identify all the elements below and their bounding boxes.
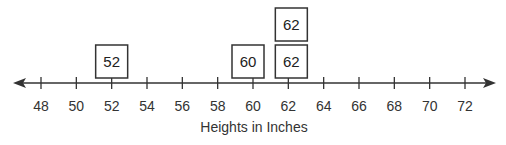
number-line-plot: 48505254565860626466687072 52606262 Heig… (0, 0, 506, 145)
tick-label: 62 (281, 98, 297, 114)
data-point-label: 62 (283, 53, 300, 70)
data-point-label: 52 (103, 53, 120, 70)
data-points: 52606262 (96, 8, 308, 78)
tick-label: 68 (387, 98, 403, 114)
data-point-box: 62 (275, 45, 307, 78)
tick-label: 72 (457, 98, 473, 114)
tick-label: 48 (33, 98, 49, 114)
tick-label: 52 (104, 98, 120, 114)
data-point-box: 60 (232, 45, 264, 78)
tick-label: 56 (175, 98, 191, 114)
data-point-box: 62 (275, 8, 307, 41)
tick-label: 58 (210, 98, 226, 114)
data-point-label: 60 (240, 53, 257, 70)
tick-label: 64 (316, 98, 332, 114)
data-point-box: 52 (96, 45, 128, 78)
x-axis-title: Heights in Inches (200, 119, 307, 135)
tick-label: 60 (245, 98, 261, 114)
tick-label: 66 (351, 98, 367, 114)
tick-label: 50 (69, 98, 85, 114)
data-point-label: 62 (283, 16, 300, 33)
number-line-axis (13, 78, 496, 88)
tick-label: 54 (139, 98, 155, 114)
tick-label: 70 (422, 98, 438, 114)
dot-plot-chart: 48505254565860626466687072 52606262 Heig… (0, 0, 506, 145)
